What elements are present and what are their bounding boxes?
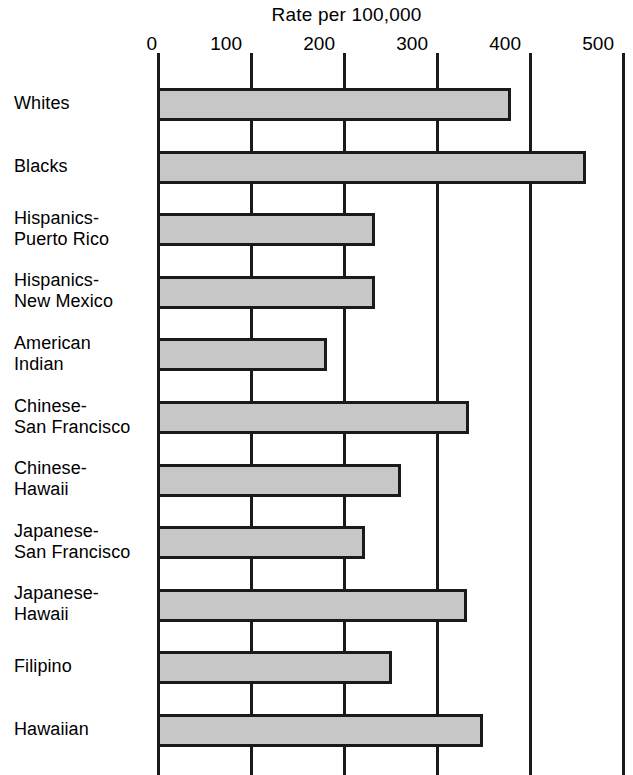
bar [157,338,327,371]
bar-chart: Rate per 100,000 0 100 200 300 400 500 W… [0,0,633,775]
x-tick-label-500: 500 [570,33,614,55]
bar [157,401,469,434]
bar [157,88,511,121]
bar [157,526,365,559]
bar [157,151,586,184]
x-tick-mark-0 [157,53,160,77]
category-label: American Indian [14,333,91,375]
x-tick-mark-300 [436,53,439,77]
category-label: Japanese- Hawaii [14,583,99,625]
category-label: Blacks [14,156,68,177]
x-tick-mark-100 [250,53,253,77]
x-tick-mark-500 [622,53,625,77]
bar [157,589,467,622]
category-label: Hispanics- Puerto Rico [14,208,109,250]
category-label: Japanese- San Francisco [14,521,130,563]
x-tick-label-100: 100 [198,33,242,55]
x-tick-label-300: 300 [384,33,428,55]
chart-title: Rate per 100,000 [0,4,633,26]
bar [157,464,401,497]
category-label: Hispanics- New Mexico [14,270,113,312]
category-label: Chinese- Hawaii [14,458,87,500]
bar [157,276,375,309]
category-label: Hawaiian [14,719,89,740]
bar [157,714,483,747]
category-label: Whites [14,93,70,114]
x-tick-mark-400 [529,53,532,77]
gridline-500 [622,77,625,775]
x-tick-mark-200 [343,53,346,77]
bar [157,213,375,246]
category-label: Filipino [14,656,72,677]
x-tick-label-400: 400 [477,33,521,55]
category-label: Chinese- San Francisco [14,396,130,438]
bar [157,651,392,684]
x-tick-label-200: 200 [291,33,335,55]
x-tick-label-0: 0 [123,33,157,55]
